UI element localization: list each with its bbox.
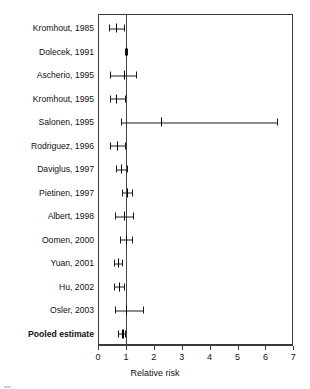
x-tick-label: 2 (144, 352, 164, 362)
x-tick (210, 346, 211, 350)
x-tick-label: 7 (283, 352, 303, 362)
pooled-point-estimate (122, 329, 124, 338)
ci-lower-cap (115, 307, 116, 314)
ci-lower-cap (116, 166, 117, 173)
x-tick (126, 346, 127, 350)
ci-upper-cap (132, 236, 133, 243)
ci-upper-cap (124, 283, 125, 290)
point-estimate-marker (116, 24, 117, 33)
ci-upper-cap (124, 25, 125, 32)
ci-lower-cap (115, 213, 116, 220)
study-row (0, 47, 310, 56)
study-row (0, 24, 310, 33)
x-tick (98, 346, 99, 350)
study-row (0, 282, 310, 291)
ci-lower-cap (114, 260, 115, 267)
study-row (0, 94, 310, 103)
ci-lower-cap (110, 95, 111, 102)
study-row (0, 188, 310, 197)
ci-upper-cap (125, 330, 126, 337)
point-estimate-marker (161, 118, 162, 127)
plot-area (98, 14, 293, 345)
confidence-interval-line (115, 310, 142, 311)
x-tick (293, 346, 294, 350)
ci-upper-cap (127, 166, 128, 173)
ci-upper-cap (125, 142, 126, 149)
ci-upper-cap (136, 72, 137, 79)
x-tick-label: 3 (172, 352, 192, 362)
ci-lower-cap (118, 330, 119, 337)
x-tick-label: 0 (88, 352, 108, 362)
point-estimate-marker (126, 47, 127, 56)
point-estimate-marker (121, 165, 122, 174)
point-estimate-marker (124, 212, 125, 221)
point-estimate-marker (126, 306, 127, 315)
point-estimate-marker (124, 71, 125, 80)
ci-lower-cap (120, 236, 121, 243)
confidence-interval-line (121, 122, 277, 123)
ci-lower-cap (109, 25, 110, 32)
x-tick (265, 346, 266, 350)
point-estimate-marker (127, 188, 128, 197)
x-tick-label: 5 (228, 352, 248, 362)
point-estimate-marker (116, 94, 117, 103)
ci-lower-cap (121, 119, 122, 126)
x-tick (238, 346, 239, 350)
forest-plot-figure: Kromhout, 1985Dolecek, 1991Ascherio, 199… (0, 0, 310, 389)
ci-upper-cap (132, 189, 133, 196)
point-estimate-marker (118, 259, 119, 268)
study-row (0, 235, 310, 244)
study-row (0, 212, 310, 221)
corner-mark (4, 386, 11, 388)
ci-upper-cap (277, 119, 278, 126)
x-tick-label: 1 (116, 352, 136, 362)
ci-upper-cap (122, 260, 123, 267)
ci-lower-cap (110, 72, 111, 79)
study-row (0, 118, 310, 127)
ci-lower-cap (114, 283, 115, 290)
point-estimate-marker (126, 235, 127, 244)
ci-upper-cap (143, 307, 144, 314)
study-row (0, 141, 310, 150)
x-tick-label: 6 (255, 352, 275, 362)
study-row (0, 165, 310, 174)
x-tick (182, 346, 183, 350)
x-axis-label: Relative risk (0, 368, 310, 378)
study-row (0, 306, 310, 315)
x-tick-label: 4 (200, 352, 220, 362)
study-row (0, 71, 310, 80)
ci-lower-cap (122, 189, 123, 196)
x-axis-line (98, 345, 293, 346)
point-estimate-marker (119, 282, 120, 291)
x-tick (154, 346, 155, 350)
reference-line-rr-1 (126, 14, 127, 345)
ci-upper-cap (125, 95, 126, 102)
pooled-estimate-row (0, 329, 310, 338)
study-row (0, 259, 310, 268)
ci-upper-cap (133, 213, 134, 220)
ci-lower-cap (110, 142, 111, 149)
point-estimate-marker (117, 141, 118, 150)
